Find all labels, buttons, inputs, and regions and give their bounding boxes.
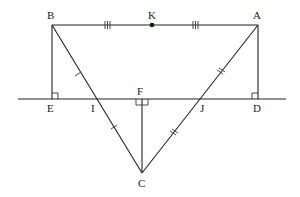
single-tick-bi	[75, 72, 81, 76]
label-d: D	[253, 102, 261, 114]
label-a: A	[253, 9, 261, 21]
label-f: F	[137, 85, 143, 97]
label-k: K	[148, 9, 156, 21]
label-c: C	[138, 177, 145, 189]
right-angle-d	[252, 93, 258, 99]
label-j: J	[200, 102, 205, 114]
right-angle-e	[52, 93, 58, 99]
label-e: E	[47, 102, 54, 114]
geometry-diagram: B K A F E I J D C	[0, 0, 300, 197]
label-i: I	[91, 102, 95, 114]
point-k-dot	[150, 23, 155, 28]
label-b: B	[47, 9, 54, 21]
single-tick-ic	[111, 125, 117, 129]
